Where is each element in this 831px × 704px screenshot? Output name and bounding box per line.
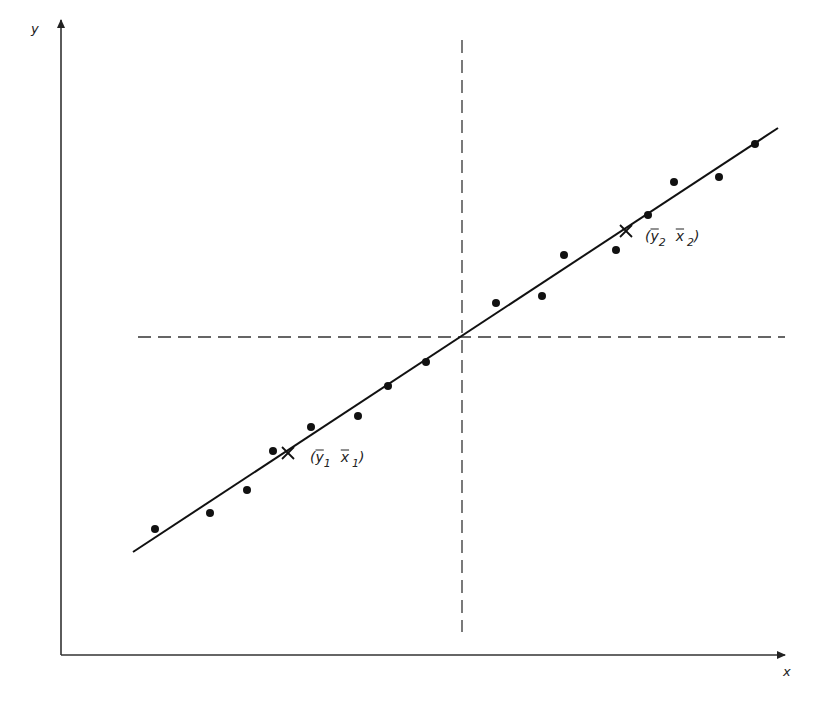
data-point [206,509,214,517]
data-point [307,423,315,431]
data-point [612,246,620,254]
data-point [422,358,430,366]
group-mean-2-label: (y2x2) [645,228,700,249]
data-point [560,251,568,259]
data-point [243,486,251,494]
group-mean-1-label: (y1x1) [310,449,365,470]
data-point [715,173,723,181]
data-point [269,447,277,455]
data-point [751,140,759,148]
data-point [644,211,652,219]
x-axis-label: x [782,664,791,679]
data-point [538,292,546,300]
data-point [151,525,159,533]
data-point [492,299,500,307]
data-point [354,412,362,420]
regression-diagram: y x (y1x1) (y2x2) [0,0,831,704]
regression-line [133,128,778,552]
y-axis-label: y [30,21,39,36]
group-mean-2: (y2x2) [620,225,700,249]
axes: y x [30,20,791,679]
group-means: (y1x1) (y2x2) [282,225,700,470]
data-point [670,178,678,186]
group-mean-1: (y1x1) [282,447,365,470]
data-point [384,382,392,390]
